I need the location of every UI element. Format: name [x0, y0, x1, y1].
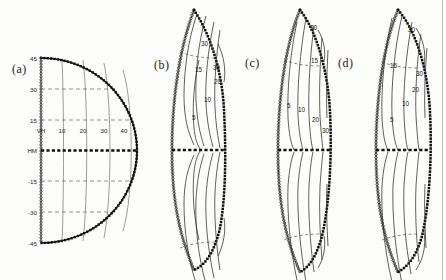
panel-b-plot: 30 15 30 20 10 5 [150, 0, 242, 280]
panel-a-xtick-40: 40 [121, 127, 128, 134]
panel-d-contour-label-20: 20 [412, 86, 420, 93]
panel-c: (c) [240, 0, 338, 280]
panel-c-contour-label-30a: 30 [310, 24, 318, 31]
panel-a-ytick-15: 15 [30, 117, 37, 124]
panel-b-contour-label-30b: 30 [213, 64, 221, 71]
panel-d: (d) [336, 0, 442, 280]
panel-c-outline [277, 9, 332, 273]
panel-b-contours [180, 14, 225, 280]
panel-a-ytick-neg30: -30 [28, 209, 38, 216]
panel-a-ytick-hm: HM [27, 147, 37, 154]
panel-a-ytick-neg15: -15 [28, 178, 38, 185]
panel-d-contour-label-5: 5 [390, 116, 394, 123]
panel-b-contour-label-30a: 30 [201, 40, 209, 47]
panel-d-contour-label-30b: 30 [416, 70, 424, 77]
panel-c-contour-label-5: 5 [287, 102, 291, 109]
panel-a: (a) [0, 0, 150, 280]
panel-c-contour-label-30b: 30 [322, 127, 330, 134]
panel-a-ytick-30: 30 [30, 86, 37, 93]
panel-a-xtick-20: 20 [80, 127, 87, 134]
panel-a-xtick-10: 10 [59, 127, 66, 134]
panel-b-contour-label-5: 5 [192, 114, 196, 121]
panel-a-ytick-45: 45 [30, 55, 37, 62]
panel-b-label: (b) [154, 58, 170, 73]
panel-d-contour-label-30a: 30 [408, 26, 416, 33]
panel-a-ytick-neg45: -45 [28, 240, 38, 247]
panel-c-plot: 30 15 5 10 20 30 [240, 0, 338, 280]
panel-a-xtick-30: 30 [101, 127, 108, 134]
panel-a-plot: 45 30 15 HM -15 -30 -45 VH 10 20 30 40 [0, 0, 150, 280]
page-right-rule [442, 0, 443, 280]
panel-c-label: (c) [245, 56, 260, 71]
panel-d-contour-label-10: 10 [402, 100, 410, 107]
panel-d-label: (d) [338, 56, 354, 71]
panel-d-contour-label-15: 15 [390, 62, 398, 69]
panel-d-plot: 30 15 30 20 10 5 [336, 0, 442, 280]
panel-a-xtick-vh: VH [37, 127, 46, 134]
panel-a-label: (a) [12, 62, 27, 77]
figure-canvas: (a) [0, 0, 446, 280]
panel-c-contour-label-15: 15 [311, 57, 319, 64]
panel-b-contour-label-10: 10 [204, 96, 212, 103]
panel-b-contour-label-15: 15 [195, 66, 203, 73]
panel-b: (b) [150, 0, 242, 280]
panel-c-contour-label-20: 20 [312, 116, 320, 123]
panel-c-contour-label-10: 10 [298, 106, 306, 113]
panel-b-contour-label-20: 20 [214, 78, 222, 85]
